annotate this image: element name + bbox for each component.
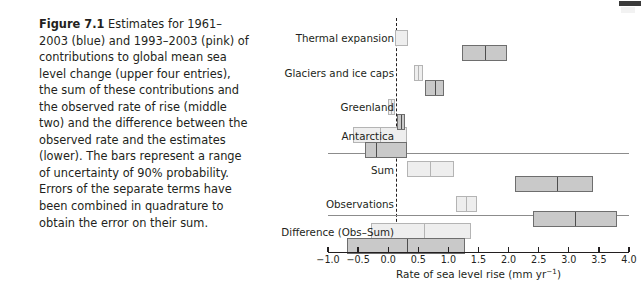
bar-center-mark xyxy=(401,115,402,129)
category-label-sum: Sum xyxy=(0,164,394,176)
x-tick-2 xyxy=(388,247,389,252)
x-tick-label-3: 0.5 xyxy=(411,254,426,265)
sea-level-rise-chart: Thermal expansionGlaciers and ice capsGr… xyxy=(0,0,643,288)
bar-center-mark xyxy=(376,143,377,157)
category-label-glaciers-and-ice-caps: Glaciers and ice caps xyxy=(0,67,394,79)
x-tick-10 xyxy=(628,247,629,252)
x-axis-title: Rate of sea level rise (mm yr−1) xyxy=(328,267,629,280)
bar-center-mark xyxy=(407,239,408,253)
x-tick-label-0: −1.0 xyxy=(316,254,339,265)
bar-blue-sum xyxy=(407,161,454,177)
category-label-observations: Observations xyxy=(0,198,394,210)
bar-pink-observations xyxy=(533,211,617,227)
bar-blue-observations xyxy=(456,196,478,212)
bar-center-mark xyxy=(485,46,486,60)
bar-center-mark xyxy=(575,212,576,226)
bar-blue-glaciers-and-ice-caps xyxy=(414,65,422,81)
x-axis-title-text: Rate of sea level rise (mm yr−1) xyxy=(396,268,561,280)
x-tick-label-4: 1.0 xyxy=(441,254,456,265)
bar-pink-antarctica xyxy=(365,142,407,158)
bar-center-mark xyxy=(424,224,425,238)
x-tick-7 xyxy=(538,247,539,252)
bar-center-mark xyxy=(557,177,558,191)
x-tick-label-2: 0.0 xyxy=(381,254,396,265)
x-tick-5 xyxy=(478,247,479,252)
x-tick-1 xyxy=(357,247,358,252)
bar-center-mark xyxy=(407,31,408,45)
x-tick-9 xyxy=(598,247,599,252)
bar-center-mark xyxy=(418,66,419,80)
x-tick-8 xyxy=(568,247,569,252)
bar-center-mark xyxy=(435,81,436,95)
x-tick-label-7: 2.5 xyxy=(531,254,546,265)
x-tick-3 xyxy=(418,247,419,252)
x-tick-6 xyxy=(508,247,509,252)
figure-7-1: Figure 7.1 Estimates for 1961–2003 (blue… xyxy=(0,0,643,288)
category-label-greenland: Greenland xyxy=(0,101,394,113)
x-tick-0 xyxy=(327,247,328,252)
x-tick-label-10: 4.0 xyxy=(621,254,636,265)
category-label-thermal-expansion: Thermal expansion xyxy=(0,32,394,44)
x-tick-label-9: 3.5 xyxy=(591,254,606,265)
bar-center-mark xyxy=(430,162,431,176)
x-tick-label-1: −0.5 xyxy=(346,254,369,265)
x-tick-4 xyxy=(448,247,449,252)
bar-blue-thermal-expansion xyxy=(395,30,408,46)
category-label-difference-obs-sum: Difference (Obs–Sum) xyxy=(0,226,394,238)
bar-center-mark xyxy=(466,197,467,211)
x-tick-label-5: 1.5 xyxy=(471,254,486,265)
x-tick-label-8: 3.0 xyxy=(561,254,576,265)
bar-pink-greenland xyxy=(397,114,405,130)
category-label-antarctica: Antarctica xyxy=(0,130,394,142)
x-tick-label-6: 2.0 xyxy=(501,254,516,265)
bar-pink-thermal-expansion xyxy=(462,45,507,61)
bar-pink-sum xyxy=(515,176,593,192)
bar-pink-glaciers-and-ice-caps xyxy=(425,80,444,96)
